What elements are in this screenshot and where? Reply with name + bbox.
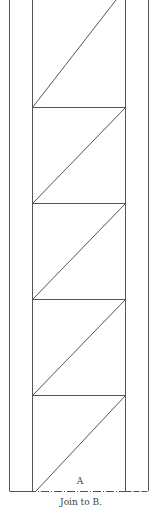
section-label: A <box>76 476 84 486</box>
caption: Join to B. <box>59 497 102 507</box>
quilt-pattern-diagram: A Join to B. <box>0 0 162 521</box>
cell-diagonal <box>33 108 126 204</box>
cell-diagonal <box>33 300 126 396</box>
cell-diagonal <box>33 204 126 300</box>
cell-diagonal <box>33 0 117 108</box>
